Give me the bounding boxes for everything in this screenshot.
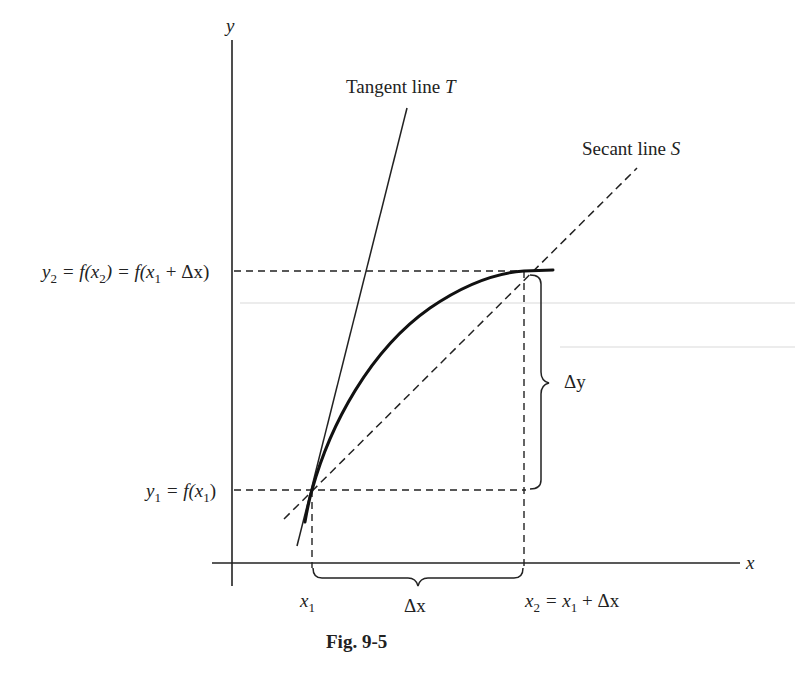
y-axis-label: y: [224, 15, 235, 36]
secant-line: [284, 168, 637, 519]
function-curve: [305, 270, 553, 522]
x-axis-label: x: [745, 552, 755, 573]
tangent-line-label: Tangent line T: [346, 76, 457, 97]
x2-label: x2 = x1 + Δx: [524, 590, 620, 615]
guide-lines: [234, 271, 526, 568]
y1-label: y1 = f(x1): [144, 480, 216, 505]
x1-label: x1: [299, 590, 315, 615]
delta-y-label: Δy: [564, 371, 586, 392]
delta-y-brace: [530, 275, 549, 489]
delta-x-label: Δx: [404, 595, 426, 616]
figure-caption: Fig. 9-5: [326, 631, 387, 652]
secant-line-label: Secant line S: [582, 138, 681, 159]
delta-x-brace: [313, 568, 523, 586]
y2-label: y2 = f(x2) = f(x1 + Δx): [40, 261, 209, 286]
secant-tangent-diagram: y x Tangent line T Secant line S y2 = f(…: [0, 0, 795, 679]
